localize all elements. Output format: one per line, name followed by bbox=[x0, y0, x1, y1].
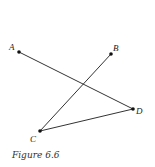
segment-AD bbox=[19, 52, 133, 109]
point-D bbox=[131, 107, 135, 111]
label-D: D bbox=[135, 106, 143, 116]
figure-caption: Figure 6.6 bbox=[11, 150, 60, 160]
label-A: A bbox=[8, 42, 15, 52]
point-A bbox=[17, 50, 21, 54]
label-C: C bbox=[30, 134, 37, 144]
point-C bbox=[38, 129, 42, 133]
segment-CD bbox=[40, 109, 133, 131]
geometry-figure: A B C D Figure 6.6 bbox=[0, 0, 155, 167]
label-B: B bbox=[113, 43, 119, 53]
